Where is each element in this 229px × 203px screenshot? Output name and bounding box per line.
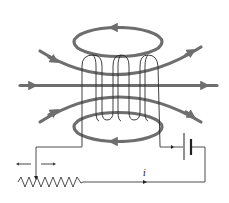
upper-field-curve (40, 47, 201, 75)
battery-icon (171, 133, 191, 160)
arrow-left-icon (16, 163, 19, 166)
current-arrow-icon (143, 180, 147, 184)
current-arrow-icon (171, 145, 174, 149)
current-label: i (143, 168, 146, 178)
arrow-right-icon (53, 163, 56, 166)
circuit-wires (36, 145, 205, 182)
upper-field-loop (74, 28, 162, 57)
variable-resistor[interactable] (18, 176, 83, 187)
lower-field-curve (40, 97, 201, 122)
solenoid-diagram: i (0, 0, 229, 203)
